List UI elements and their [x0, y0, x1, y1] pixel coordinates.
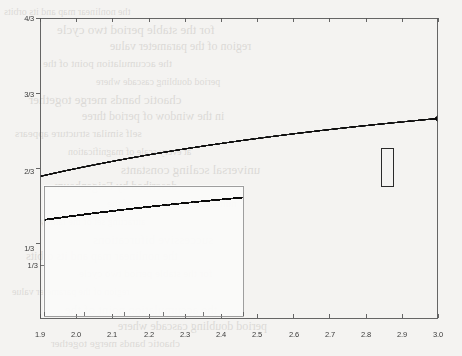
- x-tick-label-2-3: 2.3: [171, 330, 199, 339]
- y-tick-label-1-3: 1/3: [14, 244, 34, 253]
- x-tick-label-2-6: 2.6: [280, 330, 308, 339]
- x-tick-label-2-8: 2.8: [352, 330, 380, 339]
- x-tick-label-2-2: 2.2: [135, 330, 163, 339]
- bifurcation-figure: the nonlinear map and its orbitsfor the …: [0, 0, 462, 356]
- x-tick-label-2-9: 2.9: [388, 330, 416, 339]
- x-tick-label-2-1: 2.1: [98, 330, 126, 339]
- x-tick-label-3-0: 3.0: [424, 330, 452, 339]
- x-tick-label-2-7: 2.7: [316, 330, 344, 339]
- y-tick-label-2-3: 2/3: [14, 167, 34, 176]
- y-tick-label-4-3: 4/3: [14, 14, 34, 23]
- x-tick-label-2-0: 2.0: [62, 330, 90, 339]
- x-tick-label-2-5: 2.5: [243, 330, 271, 339]
- x-tick-label-2-4: 2.4: [207, 330, 235, 339]
- bifurcation-diagram-canvas: [0, 0, 462, 356]
- y-tick-label-3-3: 3/3: [14, 90, 34, 99]
- x-tick-label-1-9: 1.9: [26, 330, 54, 339]
